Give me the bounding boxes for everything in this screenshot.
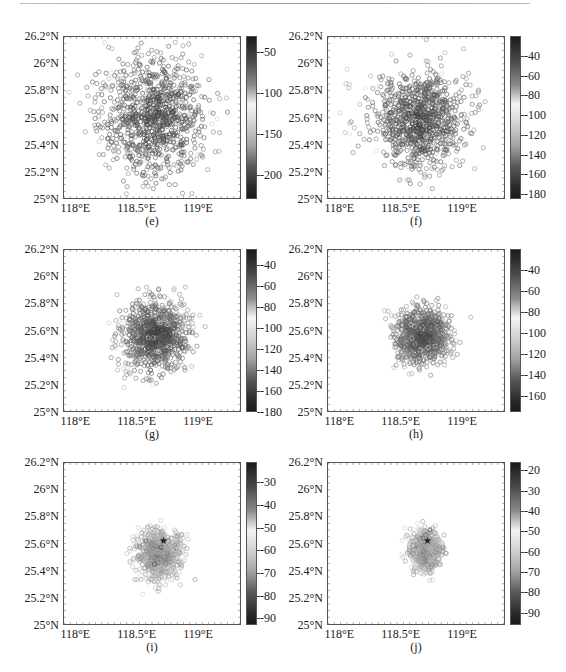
colorbar-tick-label: -160 <box>524 390 546 402</box>
y-tick-label: 26°N <box>267 270 323 282</box>
plot-area <box>63 249 241 412</box>
y-tick-label: 26°N <box>3 483 59 495</box>
y-tick-label: 25.2°N <box>267 379 323 391</box>
colorbar-tick-label: -60 <box>524 285 540 297</box>
colorbar-tick-label: -180 <box>524 188 546 200</box>
y-tick-label: 25.8°N <box>3 510 59 522</box>
y-tick-label: 26°N <box>3 57 59 69</box>
colorbar <box>246 249 257 412</box>
colorbar-tick-label: -100 <box>524 109 546 121</box>
y-tick-label: 25.6°N <box>3 538 59 550</box>
colorbar-tick-label: -80 <box>524 586 540 598</box>
y-tick-label: 25.8°N <box>3 84 59 96</box>
plot-area <box>327 36 505 199</box>
x-tick-label: 118°E <box>45 628 105 640</box>
x-tick-label: 118.5°E <box>107 628 167 640</box>
colorbar-tick-label: -100 <box>524 327 546 339</box>
y-tick-label: 26.2°N <box>3 243 59 255</box>
colorbar-tick-label: -60 <box>524 70 540 82</box>
colorbar-tick-label: -70 <box>524 566 540 578</box>
colorbar-tick-label: -40 <box>524 264 540 276</box>
y-tick-label: 25.6°N <box>3 325 59 337</box>
x-tick-label: 118°E <box>309 628 369 640</box>
y-tick-label: 25.2°N <box>3 379 59 391</box>
colorbar-tick-label: -50 <box>524 525 540 537</box>
colorbar-tick-label: -40 <box>524 50 540 62</box>
colorbar <box>510 36 521 199</box>
y-tick-label: 25.6°N <box>267 112 323 124</box>
colorbar-tick-label: -120 <box>524 348 546 360</box>
y-tick-label: 25.8°N <box>267 510 323 522</box>
colorbar-tick-label: -140 <box>524 149 546 161</box>
x-tick-label: 119°E <box>168 628 228 640</box>
colorbar-tick-label: -80 <box>524 89 540 101</box>
y-tick-label: 25.4°N <box>267 139 323 151</box>
y-tick-label: 25.4°N <box>3 565 59 577</box>
colorbar-tick-label: -140 <box>524 369 546 381</box>
colorbar-tick-label: -160 <box>524 168 546 180</box>
y-tick-label: 26°N <box>267 57 323 69</box>
scatter-points <box>64 250 240 411</box>
y-tick-label: 25.4°N <box>3 352 59 364</box>
scatter-points: ★ <box>64 463 240 624</box>
y-tick-label: 25.2°N <box>3 592 59 604</box>
y-tick-label: 25.6°N <box>3 112 59 124</box>
plot-area: ★ <box>63 462 241 625</box>
y-tick-label: 26°N <box>267 483 323 495</box>
scatter-points <box>64 37 240 198</box>
colorbar-tick-label: -80 <box>524 306 540 318</box>
y-tick-label: 26.2°N <box>267 30 323 42</box>
y-tick-label: 25.4°N <box>3 139 59 151</box>
y-tick-label: 25.8°N <box>3 297 59 309</box>
colorbar-tick-label: -30 <box>524 485 540 497</box>
y-tick-label: 26.2°N <box>267 456 323 468</box>
plot-area <box>327 249 505 412</box>
plot-area <box>63 36 241 199</box>
colorbar <box>246 36 257 199</box>
scatter-panel-i: 26.2°N26°N25.8°N25.6°N25.4°N25.2°N25°N11… <box>0 426 283 650</box>
y-tick-label: 26°N <box>3 270 59 282</box>
colorbar-tick-label: -90 <box>524 607 540 619</box>
scatter-panel-h: 26.2°N26°N25.8°N25.6°N25.4°N25.2°N25°N11… <box>264 213 547 437</box>
y-tick-label: 26.2°N <box>3 456 59 468</box>
panel-caption: (i) <box>132 641 172 653</box>
y-tick-label: 26.2°N <box>3 30 59 42</box>
y-tick-label: 25.8°N <box>267 84 323 96</box>
y-tick-label: 25.2°N <box>267 166 323 178</box>
y-tick-label: 25.4°N <box>267 352 323 364</box>
colorbar-tick-label: -40 <box>524 505 540 517</box>
x-tick-label: 118.5°E <box>371 628 431 640</box>
scatter-panel-g: 26.2°N26°N25.8°N25.6°N25.4°N25.2°N25°N11… <box>0 213 283 437</box>
epicenter-star-icon: ★ <box>423 535 432 546</box>
scatter-points <box>328 250 504 411</box>
y-tick-label: 25.8°N <box>267 297 323 309</box>
y-tick-label: 26.2°N <box>267 243 323 255</box>
scatter-panel-e: 26.2°N26°N25.8°N25.6°N25.4°N25.2°N25°N11… <box>0 0 283 224</box>
epicenter-star-icon: ★ <box>159 535 168 546</box>
colorbar <box>246 462 257 625</box>
panel-caption: (j) <box>396 641 436 653</box>
x-tick-label: 119°E <box>432 628 492 640</box>
y-tick-label: 25.2°N <box>3 166 59 178</box>
scatter-panel-f: 26.2°N26°N25.8°N25.6°N25.4°N25.2°N25°N11… <box>264 0 547 224</box>
colorbar-tick-label: -60 <box>524 546 540 558</box>
scatter-points <box>328 37 504 198</box>
scatter-points: ★ <box>328 463 504 624</box>
colorbar <box>510 249 521 412</box>
colorbar-tick-label: -120 <box>524 129 546 141</box>
colorbar-tick-label: -20 <box>524 464 540 476</box>
y-tick-label: 25.6°N <box>267 325 323 337</box>
colorbar <box>510 462 521 625</box>
scatter-panel-j: 26.2°N26°N25.8°N25.6°N25.4°N25.2°N25°N11… <box>264 426 547 650</box>
plot-area: ★ <box>327 462 505 625</box>
y-tick-label: 25.4°N <box>267 565 323 577</box>
y-tick-label: 25.2°N <box>267 592 323 604</box>
y-tick-label: 25.6°N <box>267 538 323 550</box>
